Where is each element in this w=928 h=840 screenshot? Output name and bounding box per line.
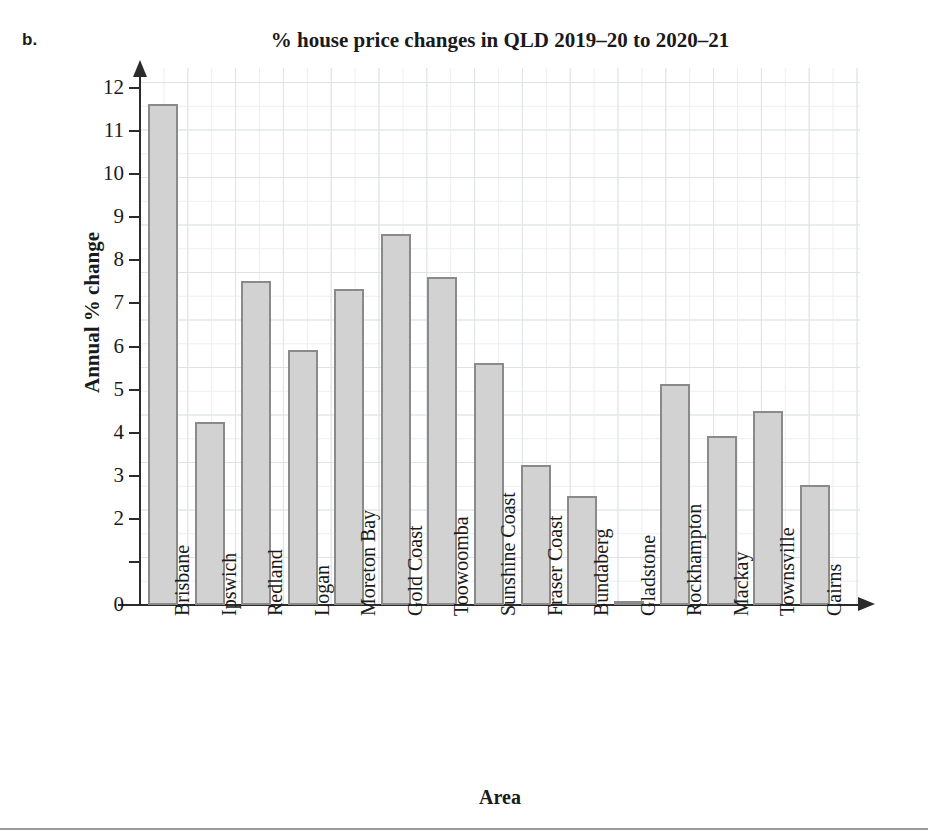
x-axis-title: Area [140, 786, 860, 809]
bar [148, 104, 178, 605]
x-axis-category-label: Moreton Bay [357, 510, 380, 616]
x-axis-category-label: Sunshine Coast [497, 492, 520, 616]
x-axis-category-label: Gladstone [637, 535, 660, 616]
x-axis-category-label: Brisbane [171, 545, 194, 616]
x-axis-category-label: Bundaberg [590, 529, 613, 616]
page-bottom-rule [0, 828, 928, 830]
x-axis-category-label: Redland [264, 549, 287, 616]
x-axis-category-label: Mackay [730, 552, 753, 616]
figure-panel: b. % house price changes in QLD 2019–20 … [0, 0, 928, 840]
x-axis-category-label: Rockhampton [683, 504, 706, 616]
x-axis-category-label: Ipswich [218, 553, 241, 616]
bars-layer [0, 0, 928, 840]
x-axis-category-label: Toowoomba [450, 516, 473, 616]
x-axis-category-label: Cairns [823, 564, 846, 616]
x-axis-category-label: Fraser Coast [544, 515, 567, 616]
x-axis-category-label: Gold Coast [404, 525, 427, 616]
x-axis-category-label: Townsville [776, 527, 799, 616]
x-axis-category-label: Logan [311, 565, 334, 616]
